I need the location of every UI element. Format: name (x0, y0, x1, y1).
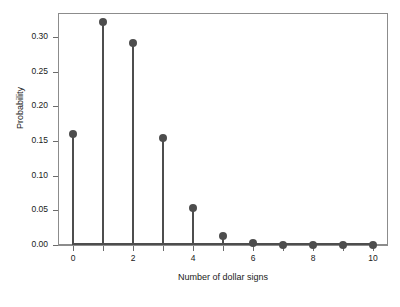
x-tick-mark (223, 246, 224, 251)
y-tick-label: 0.30 (8, 32, 48, 41)
y-tick-mark (53, 245, 58, 246)
stem-line (102, 22, 104, 245)
stem-line (162, 138, 164, 245)
x-tick-mark (103, 246, 104, 251)
stem-marker (129, 39, 137, 47)
stem-marker (189, 204, 197, 212)
x-tick-mark (73, 246, 74, 251)
stem-line (192, 208, 194, 245)
stem-line (72, 134, 74, 245)
x-tick-label: 6 (238, 254, 268, 263)
y-axis-title: Probability (15, 53, 25, 163)
stem-marker (219, 232, 227, 240)
stem-line (132, 43, 134, 245)
x-tick-label: 2 (118, 254, 148, 263)
y-tick-label: 0.25 (8, 67, 48, 76)
y-tick-label: 0.05 (8, 205, 48, 214)
stem-plot-series (58, 13, 388, 245)
chart-figure: 0.000.050.100.150.200.250.30 0246810 Num… (0, 0, 400, 307)
x-axis-title: Number of dollar signs (58, 272, 388, 282)
stem-marker (99, 18, 107, 26)
stem-marker (69, 130, 77, 138)
x-tick-mark (133, 246, 134, 251)
x-tick-label: 4 (178, 254, 208, 263)
baseline (73, 243, 373, 245)
stem-marker (159, 134, 167, 142)
y-tick-label: 0.10 (8, 171, 48, 180)
x-tick-label: 10 (358, 254, 388, 263)
y-tick-label: 0.15 (8, 136, 48, 145)
x-tick-mark (193, 246, 194, 251)
y-tick-label: 0.20 (8, 101, 48, 110)
y-tick-label: 0.00 (8, 240, 48, 249)
x-tick-label: 8 (298, 254, 328, 263)
x-tick-mark (163, 246, 164, 251)
x-tick-label: 0 (58, 254, 88, 263)
